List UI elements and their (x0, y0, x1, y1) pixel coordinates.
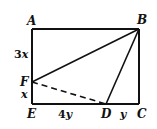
length-dc: y (119, 108, 128, 121)
label-point-d: D (100, 107, 112, 121)
label-point-c: C (137, 107, 147, 121)
segment-db (106, 29, 139, 104)
geometry-figure: A B C D E F 3x x 4y y (0, 0, 157, 129)
segment-fb (32, 29, 139, 82)
length-ed: 4y (58, 108, 74, 121)
length-af: 3x (14, 48, 29, 61)
segment-fd-dashed (32, 82, 106, 104)
length-fe: x (20, 88, 28, 101)
label-point-f: F (19, 75, 30, 89)
label-point-e: E (26, 107, 37, 121)
label-point-b: B (136, 13, 147, 27)
label-point-a: A (26, 14, 36, 28)
